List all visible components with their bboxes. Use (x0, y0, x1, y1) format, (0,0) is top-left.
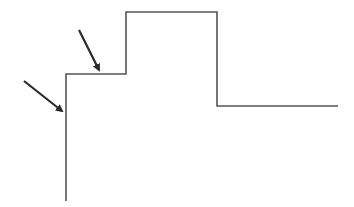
diagram-canvas (0, 0, 354, 207)
arrow-to-vertical-edge-icon (24, 81, 62, 111)
step-profile-line (66, 12, 338, 201)
arrows-group (24, 30, 99, 111)
step-diagram (0, 0, 354, 207)
arrow-to-step-corner-icon (79, 30, 99, 70)
